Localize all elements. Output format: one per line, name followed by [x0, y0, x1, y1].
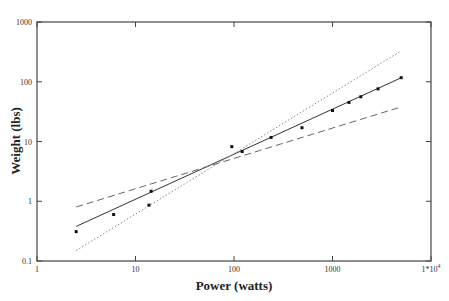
data-point — [377, 87, 380, 90]
data-point — [400, 76, 403, 79]
line-fit — [76, 78, 401, 227]
x-tick-label: 10 — [132, 265, 140, 274]
data-point — [230, 145, 233, 148]
y-tick-label: 1 — [28, 197, 32, 206]
data-point — [347, 101, 350, 104]
data-point — [300, 126, 303, 129]
line-upper-bound — [76, 51, 401, 251]
y-tick-label: 100 — [20, 78, 32, 87]
x-tick-label: 100 — [228, 265, 240, 274]
data-point — [150, 190, 153, 193]
y-axis-title: Weight (lbs) — [8, 107, 23, 175]
y-tick-label: 10 — [24, 138, 32, 147]
y-tick-label: 1000 — [16, 18, 32, 27]
chart: 11010010001*1040.11101001000 Power (watt… — [0, 0, 449, 301]
plot-border — [37, 22, 431, 261]
y-tick-label: 0.1 — [22, 257, 32, 266]
x-axis-title: Power (watts) — [196, 278, 273, 293]
data-point — [331, 109, 334, 112]
data-point — [147, 204, 150, 207]
line-lower-bound — [76, 107, 401, 207]
x-tick-label: 1 — [35, 265, 39, 274]
x-tick-label: 1*104 — [422, 263, 441, 274]
data-point — [75, 230, 78, 233]
data-point — [270, 136, 273, 139]
data-point — [359, 95, 362, 98]
x-tick-label: 1000 — [325, 265, 341, 274]
axis-ticks: 11010010001*1040.11101001000 — [16, 18, 441, 274]
data-point — [112, 213, 115, 216]
plot-frame — [37, 22, 431, 261]
fit-lines — [76, 51, 401, 251]
data-point — [241, 150, 244, 153]
